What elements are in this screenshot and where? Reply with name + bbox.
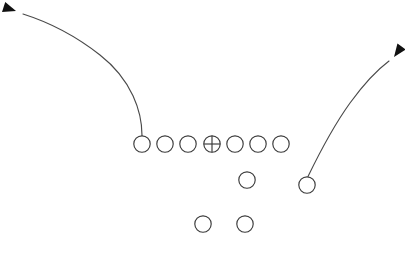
player-center[interactable] <box>204 136 220 152</box>
flanker-route-line <box>308 61 389 177</box>
player-marker-circle <box>250 136 266 152</box>
player-marker-circle <box>134 136 150 152</box>
player-marker-circle <box>239 172 255 188</box>
player-left-tackle[interactable] <box>157 136 173 152</box>
player-marker-circle <box>180 136 196 152</box>
player-left-back[interactable] <box>195 216 211 232</box>
player-marker-circle <box>195 216 211 232</box>
player-marker-circle <box>227 136 243 152</box>
player-right-tackle[interactable] <box>250 136 266 152</box>
flanker-route-arrowhead <box>394 43 405 57</box>
left-end-route <box>2 2 142 135</box>
routes-layer <box>2 2 405 176</box>
player-right-back[interactable] <box>237 216 253 232</box>
player-right-end[interactable] <box>273 136 289 152</box>
player-flanker[interactable] <box>299 177 315 193</box>
left-end-route-line <box>23 14 142 136</box>
player-marker-circle <box>273 136 289 152</box>
left-end-route-arrowhead <box>2 2 16 12</box>
player-quarterback[interactable] <box>239 172 255 188</box>
player-marker-circle <box>157 136 173 152</box>
play-diagram <box>0 0 405 257</box>
player-right-guard[interactable] <box>227 136 243 152</box>
player-left-guard[interactable] <box>180 136 196 152</box>
player-marker-circle <box>237 216 253 232</box>
player-marker-circle <box>299 177 315 193</box>
flanker-route <box>308 43 405 176</box>
play-diagram-canvas <box>0 0 405 257</box>
player-left-end[interactable] <box>134 136 150 152</box>
players-layer <box>134 136 315 232</box>
